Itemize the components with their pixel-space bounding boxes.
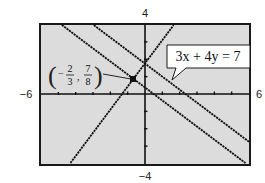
- ymin-label: −4: [139, 170, 152, 182]
- point-label: ( − 2 3 , 7 8 ): [48, 60, 103, 92]
- xmin-label: −6: [20, 88, 33, 100]
- open-paren: (: [48, 61, 57, 90]
- x-sign: −: [58, 68, 64, 79]
- graphing-calculator-screen: 4 −4 −6 6 ( − 2 3 , 7 8 ) 3x + 4y = 7: [0, 0, 265, 183]
- x-denominator: 3: [68, 76, 73, 87]
- comma: ,: [77, 71, 80, 82]
- ymax-label: 4: [142, 7, 148, 19]
- y-denominator: 8: [86, 76, 91, 87]
- equation-label: 3x + 4y = 7: [176, 49, 241, 64]
- xmax-label: 6: [256, 88, 262, 100]
- close-paren: ): [94, 61, 103, 90]
- y-numerator: 7: [86, 63, 91, 74]
- x-numerator: 2: [68, 63, 73, 74]
